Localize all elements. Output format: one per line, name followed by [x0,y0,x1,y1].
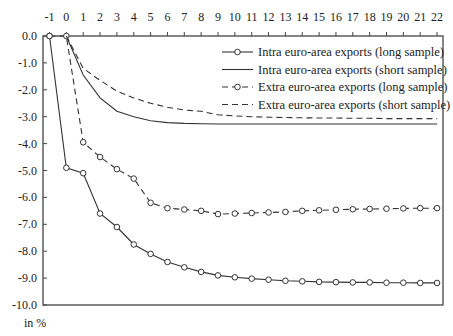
data-point-marker [148,200,154,206]
data-point-marker [434,205,440,211]
y-tick-label: -4.0 [18,137,37,151]
x-tick-label: 10 [229,10,241,24]
y-axis-unit-label: in % [24,316,46,330]
line-chart: -1012345678910111213141516171819202122 0… [0,0,453,336]
y-tick-label: -6.0 [18,190,37,204]
legend-label: Extra euro-area exports (short sample) [258,98,450,112]
data-point-marker [401,280,407,286]
data-point-marker [417,280,423,286]
data-point-marker [114,224,120,230]
data-point-marker [401,206,407,212]
data-point-marker [232,274,238,280]
data-point-marker [299,208,305,214]
y-tick-label: -7.0 [18,217,37,231]
data-point-marker [232,211,238,217]
data-point-marker [316,279,322,285]
data-point-marker [148,251,154,257]
data-point-marker [266,210,272,216]
legend-label: Intra euro-area exports (short sample) [258,63,447,77]
data-point-marker [131,176,137,182]
x-tick-label: 22 [431,10,443,24]
data-point-marker [97,154,103,160]
x-tick-label: 12 [263,10,275,24]
x-tick-label: 11 [246,10,258,24]
x-tick-label: 17 [347,10,359,24]
x-axis-ticks: -1012345678910111213141516171819202122 [45,10,444,36]
data-point-marker [165,205,171,211]
data-point-marker [97,211,103,217]
chart-canvas: -1012345678910111213141516171819202122 0… [0,0,453,336]
data-point-marker [299,279,305,285]
y-tick-label: -3.0 [18,110,37,124]
y-tick-label: -9.0 [18,271,37,285]
y-tick-label: -1.0 [18,56,37,70]
x-tick-label: 9 [215,10,221,24]
legend-label: Intra euro-area exports (long sample) [258,45,444,59]
data-point-marker [316,208,322,214]
data-point-marker [350,206,356,212]
data-point-marker [367,280,373,286]
x-tick-label: 6 [164,10,170,24]
x-tick-label: 3 [114,10,120,24]
data-point-marker [114,166,120,172]
data-point-marker [249,210,255,216]
x-tick-label: 4 [131,10,137,24]
x-tick-label: 5 [148,10,154,24]
data-point-marker [266,277,272,283]
data-point-marker [283,278,289,284]
data-point-marker [131,242,137,248]
data-point-marker [283,209,289,215]
data-point-marker [249,276,255,282]
x-tick-label: 2 [97,10,103,24]
x-tick-label: 19 [381,10,393,24]
data-point-marker [182,207,188,213]
x-tick-label: 16 [330,10,342,24]
data-point-marker [198,208,204,214]
data-point-marker [64,165,70,171]
legend-swatch-marker [235,49,241,55]
data-point-marker [367,206,373,212]
x-tick-label: 18 [364,10,376,24]
data-point-marker [47,33,53,39]
x-tick-label: 21 [414,10,426,24]
data-point-marker [384,280,390,286]
data-point-marker [417,205,423,211]
y-tick-label: 0.0 [22,29,37,43]
data-point-marker [434,280,440,286]
data-point-marker [350,280,356,286]
y-tick-label: -10.0 [12,298,37,312]
x-tick-label: 7 [181,10,187,24]
data-point-marker [80,170,86,176]
x-tick-label: 1 [80,10,86,24]
data-point-marker [384,206,390,212]
data-point-marker [215,211,221,217]
x-tick-label: 8 [198,10,204,24]
legend-swatch-marker [235,84,241,90]
x-tick-label: 13 [279,10,291,24]
y-axis-ticks: 0.0-1.0-2.0-3.0-4.0-5.0-6.0-7.0-8.0-9.0-… [12,29,47,312]
data-point-marker [198,269,204,275]
x-tick-label: 0 [63,10,69,24]
legend: Intra euro-area exports (long sample)Int… [222,45,450,112]
data-point-marker [333,279,339,285]
data-point-marker [165,259,171,265]
x-tick-label: 14 [296,10,308,24]
x-tick-label: 20 [397,10,409,24]
data-point-marker [80,139,86,145]
x-tick-label: -1 [45,10,55,24]
y-tick-label: -8.0 [18,244,37,258]
data-point-marker [182,265,188,271]
y-tick-label: -2.0 [18,83,37,97]
data-point-marker [333,207,339,213]
data-point-marker [215,273,221,279]
legend-label: Extra euro-area exports (long sample) [258,80,448,94]
x-tick-label: 15 [313,10,325,24]
y-tick-label: -5.0 [18,164,37,178]
